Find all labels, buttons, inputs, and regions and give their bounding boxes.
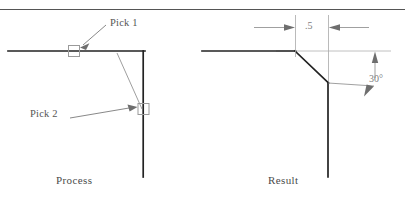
- result-panel: [202, 15, 391, 177]
- technical-drawing: [0, 0, 405, 199]
- caption-process: Process: [56, 174, 92, 186]
- dimension-length-value: .5: [305, 20, 313, 31]
- pick2-label: Pick 2: [30, 108, 58, 119]
- dim-angle-up-arrowhead: [372, 52, 378, 64]
- pick1-leader-line: [83, 25, 106, 45]
- pick1-arrowhead: [80, 43, 89, 50]
- pick2-arrowhead: [128, 105, 138, 112]
- figure-container: Pick 1 Pick 2 .5 30° Process Result: [0, 0, 405, 199]
- pick2-leader-line: [70, 108, 129, 118]
- process-panel: [8, 25, 149, 177]
- dimension-angle-value: 30°: [369, 73, 383, 84]
- dim-angle-leader-arrowhead: [364, 85, 374, 97]
- caption-result: Result: [268, 174, 299, 186]
- dim-length-right-arrowhead: [329, 24, 340, 31]
- chamfer-line: [295, 51, 329, 83]
- chamfer-preview-line: [117, 53, 142, 109]
- dim-length-left-arrowhead: [284, 24, 295, 31]
- pick1-label: Pick 1: [110, 17, 138, 28]
